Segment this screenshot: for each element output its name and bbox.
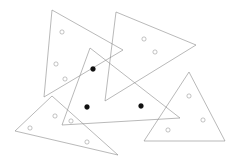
canvas-background [0,0,240,165]
figure-container [0,0,240,165]
filled-point-marker [91,67,96,72]
filled-point-marker [139,104,144,109]
filled-point-marker [85,105,90,110]
triangles-scatter-canvas [0,0,240,165]
